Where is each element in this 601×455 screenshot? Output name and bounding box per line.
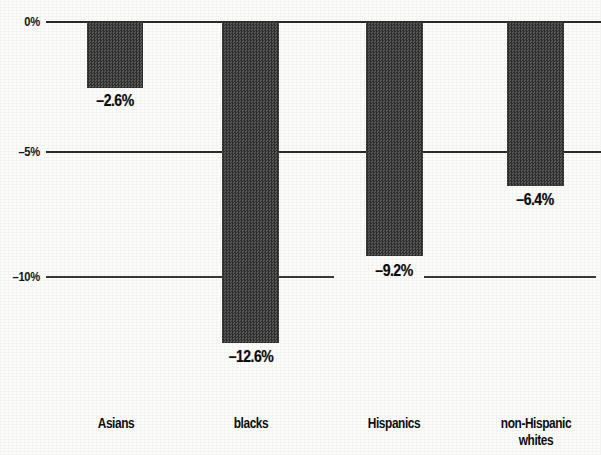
- bar-chart: 0% –5% –10% –2.6% –12.6% –9.2% –6.4% Asi…: [0, 0, 601, 455]
- bar-value-label-blacks: –12.6%: [211, 348, 290, 366]
- y-tick-label-0: 0%: [6, 14, 40, 29]
- category-label-blacks-line1: blacks: [234, 415, 269, 431]
- bar-value-label-asians: –2.6%: [80, 92, 150, 110]
- y-tick-label-10: –10%: [6, 269, 40, 284]
- category-label-non-hispanic-whites-line1: non-Hispanic: [501, 415, 571, 431]
- bar-non-hispanic-whites: [507, 22, 564, 186]
- y-tick-label-5: –5%: [6, 144, 40, 159]
- bar-hispanics: [366, 22, 423, 256]
- category-label-asians-line1: Asians: [98, 415, 134, 431]
- plot-area: 0% –5% –10% –2.6% –12.6% –9.2% –6.4% Asi…: [0, 0, 601, 455]
- category-label-asians: Asians: [77, 415, 155, 432]
- gridline-10c: [424, 276, 596, 278]
- bar-value-label-hispanics: –9.2%: [355, 262, 432, 280]
- bar-asians: [87, 22, 143, 88]
- bar-value-label-non-hispanic-whites: –6.4%: [496, 191, 573, 209]
- category-label-hispanics: Hispanics: [355, 415, 433, 432]
- bar-blacks: [222, 22, 279, 343]
- category-label-hispanics-line1: Hispanics: [368, 415, 420, 431]
- category-label-non-hispanic-whites: non-Hispanic whites: [486, 415, 586, 449]
- category-label-non-hispanic-whites-line2: whites: [519, 432, 553, 448]
- category-label-blacks: blacks: [212, 415, 290, 432]
- gridline-10a: [46, 276, 186, 278]
